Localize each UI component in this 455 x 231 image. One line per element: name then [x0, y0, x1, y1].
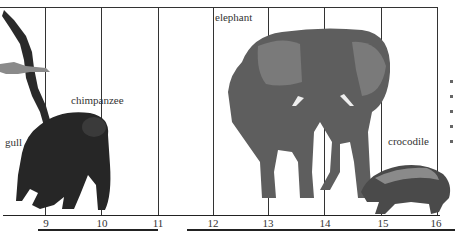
top-border-line — [0, 7, 437, 8]
animal-size-scale-diagram: gull chimpanzee elephant crocodile 9 10 … — [0, 0, 455, 231]
crocodile-label: crocodile — [388, 135, 429, 147]
tick-label-12: 12 — [208, 217, 219, 229]
crocodile-illustration — [355, 152, 455, 216]
page-edge-marks — [450, 80, 453, 180]
tick-label-15: 15 — [378, 217, 389, 229]
gull-label: gull — [5, 136, 22, 148]
scale-baseline — [3, 215, 440, 216]
tick-label-11: 11 — [153, 217, 164, 229]
bottom-rule-left — [38, 229, 158, 231]
tick-label-10: 10 — [97, 217, 108, 229]
chimpanzee-label: chimpanzee — [71, 94, 124, 106]
grid-line-11 — [158, 7, 159, 216]
elephant-label: elephant — [215, 11, 252, 23]
grid-line-12 — [213, 7, 214, 216]
bottom-rule-right — [187, 229, 455, 231]
tick-label-9: 9 — [43, 217, 49, 229]
tick-label-16: 16 — [431, 217, 442, 229]
tick-label-14: 14 — [320, 217, 331, 229]
tick-label-13: 13 — [263, 217, 274, 229]
chimpanzee-illustration — [10, 105, 120, 215]
